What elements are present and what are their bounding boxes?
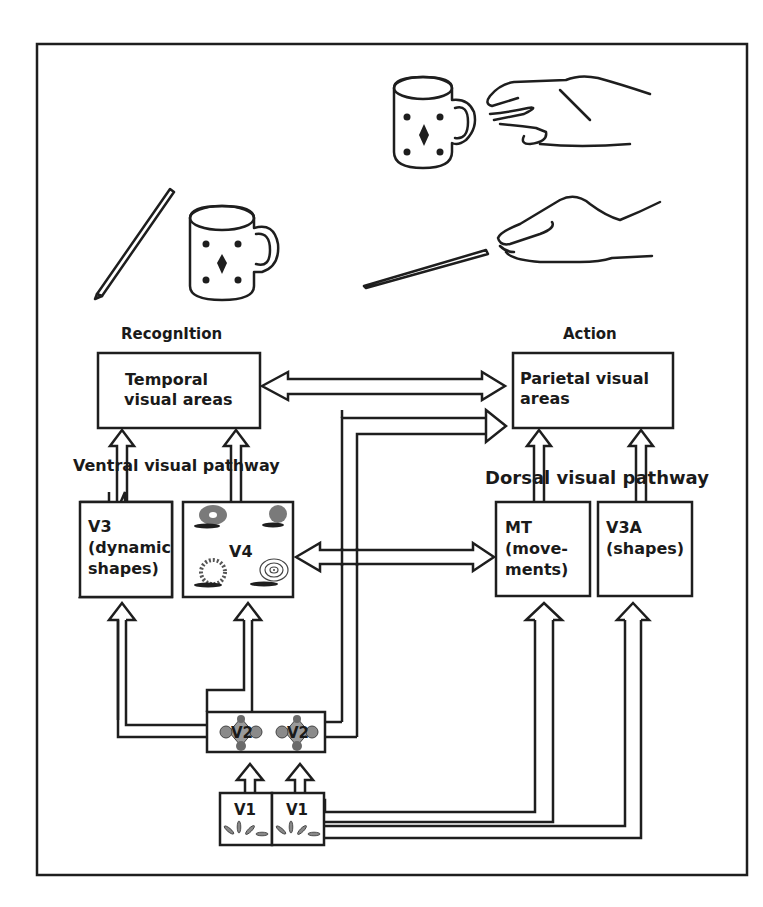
reaching-hand-icon [487, 76, 650, 146]
v2-right-label: V2 [287, 724, 309, 742]
recognition-heading: RecognItion [121, 325, 222, 343]
grasping-hand-icon [498, 197, 660, 262]
parietal-line1: Parietal visual [520, 369, 649, 388]
v1-right-label: V1 [286, 801, 308, 819]
parietal-line2: areas [520, 389, 570, 408]
v1-v3a-arrowhead [617, 603, 649, 620]
v1-v2-left-arrow [237, 764, 263, 793]
v4-label: V4 [229, 542, 253, 561]
v1-left-label: V1 [234, 801, 256, 819]
dorsal-pathway-label: Dorsal visual pathway [485, 467, 709, 488]
v1-mt-pipe-outer [325, 620, 553, 822]
action-heading: Action [563, 325, 617, 343]
v2-v4-pipe-left [207, 620, 244, 712]
pencil-icon [95, 189, 174, 299]
v2-parietal-arrowhead [486, 410, 506, 442]
v2-parietal-pipe-inner [342, 418, 486, 722]
temporal-parietal-bidirectional-arrow [262, 372, 505, 400]
v1-mt-arrowhead [526, 603, 562, 620]
ventral-pathway-label: Ventral visual pathway [73, 456, 280, 475]
mug-icon [190, 206, 278, 300]
mt-line1: MT [505, 518, 532, 537]
v4-mt-bidirectional-arrow [296, 543, 494, 571]
visual-pathways-diagram: RecognItion Action Temporal visual areas… [0, 0, 763, 907]
v2-v3-pipe-outer [118, 620, 207, 737]
v3-line1: V3 [88, 517, 112, 536]
v2-v3-pipe-inner [126, 620, 207, 725]
v2-parietal-pipe-outer [357, 434, 486, 737]
temporal-line1: Temporal [125, 370, 208, 389]
v1-mt-pipe-inner [324, 620, 535, 812]
mt-line3: ments) [505, 560, 568, 579]
pencil-icon [364, 250, 488, 288]
v3a-line1: V3A [606, 518, 643, 537]
v1-v3a-pipe-outer [325, 620, 641, 838]
v1-v2-right-arrow [287, 764, 313, 793]
mug-icon [394, 77, 475, 168]
v3a-line2: (shapes) [606, 539, 684, 558]
v2-v3-arrowhead [109, 603, 135, 720]
mt-line2: (move- [505, 539, 568, 558]
v2-left-label: V2 [231, 724, 253, 742]
v1-v3a-pipe-inner [325, 620, 625, 826]
v3-line2: (dynamic [88, 538, 171, 557]
v3-line3: shapes) [88, 559, 159, 578]
v2-v4-arrowhead [235, 603, 261, 620]
temporal-line2: visual areas [124, 390, 233, 409]
